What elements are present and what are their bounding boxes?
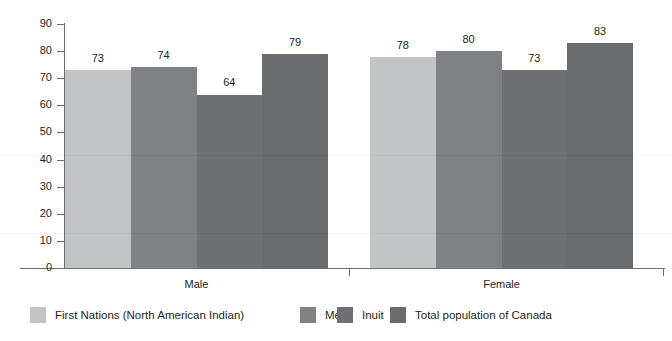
y-axis-tick-label-text: 80: [18, 45, 52, 56]
y-axis-tick-label: 80: [0, 45, 52, 56]
y-axis-tick: [57, 268, 65, 269]
y-axis-tick: [57, 24, 65, 25]
y-axis-tick-label-text: 10: [18, 235, 52, 246]
bar: [436, 51, 502, 268]
y-axis-tick: [57, 132, 65, 133]
bar-value-label: 83: [567, 26, 633, 37]
y-axis-tick-label: 70: [0, 72, 52, 83]
y-axis-tick-label-text: 30: [18, 181, 52, 192]
y-axis-tick: [57, 214, 65, 215]
bar: [262, 54, 328, 268]
bar: [197, 95, 263, 269]
y-axis-tick: [57, 160, 65, 161]
bar: [131, 67, 197, 268]
legend: First Nations (North American Indian)Mét…: [0, 303, 672, 331]
y-axis-tick-label: 60: [0, 99, 52, 110]
bar: [65, 70, 131, 268]
y-axis-tick-label-text: 0: [18, 262, 52, 273]
y-axis-tick-label: 0: [0, 262, 52, 273]
bar-chart: 0102030405060708090 7374647978807383 Mal…: [0, 0, 672, 341]
y-axis-tick-label: 10: [0, 235, 52, 246]
legend-item: Inuit: [337, 303, 384, 327]
bar-value-label: 80: [436, 34, 502, 45]
y-axis-tick-label-text: 60: [18, 99, 52, 110]
bar-value-label: 78: [370, 40, 436, 51]
bar: [502, 70, 568, 268]
y-axis-tick-label-text: 20: [18, 208, 52, 219]
legend-swatch: [30, 307, 46, 323]
y-axis-tick-label-text: 40: [18, 154, 52, 165]
bar-value-label: 74: [131, 50, 197, 61]
bar-value-label: 79: [262, 37, 328, 48]
x-axis-tick: [349, 269, 350, 276]
bar-value-label: 73: [65, 53, 131, 64]
y-axis-tick: [57, 187, 65, 188]
y-axis-tick-label: 30: [0, 181, 52, 192]
legend-label: Total population of Canada: [415, 309, 552, 322]
y-axis-tick-label: 90: [0, 18, 52, 29]
y-axis-tick: [57, 78, 65, 79]
legend-label: First Nations (North American Indian): [55, 309, 244, 322]
y-axis-tick: [57, 241, 65, 242]
legend-swatch: [337, 307, 353, 323]
y-axis-tick-label: 20: [0, 208, 52, 219]
x-axis-category-label: Female: [370, 278, 633, 290]
legend-label: Inuit: [362, 309, 384, 322]
x-axis-line: [20, 268, 665, 269]
legend-swatch: [390, 307, 406, 323]
legend-item: First Nations (North American Indian): [30, 303, 244, 327]
legend-item: Total population of Canada: [390, 303, 552, 327]
legend-swatch: [300, 307, 316, 323]
y-axis-tick: [57, 105, 65, 106]
y-axis-tick-label: 50: [0, 126, 52, 137]
y-axis-tick-label-text: 50: [18, 126, 52, 137]
y-axis-tick-label-text: 70: [18, 72, 52, 83]
bar-value-label: 64: [197, 77, 263, 88]
bar: [567, 43, 633, 268]
y-axis-tick-label: 40: [0, 154, 52, 165]
x-axis-tick: [663, 269, 664, 276]
y-axis-tick: [57, 51, 65, 52]
y-axis-tick-label-text: 90: [18, 18, 52, 29]
bar: [370, 57, 436, 268]
bar-value-label: 73: [502, 53, 568, 64]
x-axis-category-label: Male: [65, 278, 328, 290]
